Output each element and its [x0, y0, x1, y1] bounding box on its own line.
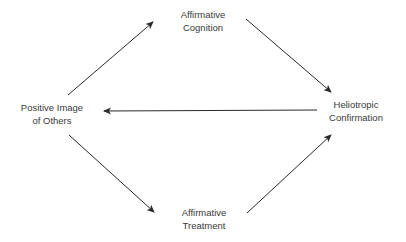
arrow-affirmative-cognition-to-heliotropic-confirmation	[246, 19, 331, 92]
node-affirmative-treatment: Affirmative Treatment	[182, 206, 227, 232]
node-label-line2: Cognition	[181, 21, 226, 34]
node-label-line2: Treatment	[182, 219, 227, 232]
node-label-line1: Affirmative	[181, 8, 226, 21]
node-positive-image-of-others: Positive Image of Others	[21, 101, 83, 127]
arrow-positive-image-to-affirmative-cognition	[68, 22, 153, 95]
node-label-line1: Heliotropic	[329, 98, 383, 111]
node-label-line2: Confirmation	[329, 111, 383, 124]
arrow-positive-image-to-affirmative-treatment	[69, 135, 154, 212]
node-label-line1: Affirmative	[182, 206, 227, 219]
node-label-line1: Positive Image	[21, 101, 83, 114]
node-heliotropic-confirmation: Heliotropic Confirmation	[329, 98, 383, 124]
node-affirmative-cognition: Affirmative Cognition	[181, 8, 226, 34]
arrow-affirmative-treatment-to-heliotropic-confirmation	[247, 135, 331, 213]
heliotropic-cycle-diagram: Affirmative Cognition Positive Image of …	[0, 0, 406, 242]
arrow-heliotropic-confirmation-to-positive-image	[104, 110, 317, 111]
node-label-line2: of Others	[21, 114, 83, 127]
